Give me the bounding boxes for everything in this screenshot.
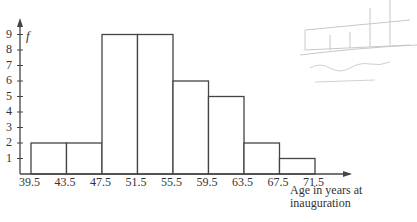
y-tick-label: 6 — [6, 73, 12, 88]
histogram-bar — [244, 143, 280, 174]
x-tick-label: 51.5 — [126, 175, 147, 190]
y-tick-label: 4 — [6, 104, 12, 119]
x-tick-label: 59.5 — [197, 175, 218, 190]
y-tick-label: 9 — [6, 27, 12, 42]
y-tick-label: 7 — [6, 58, 12, 73]
histogram-bar — [138, 35, 174, 175]
y-tick-label: 3 — [6, 120, 12, 135]
histogram-bar — [280, 159, 316, 175]
y-tick-label: 8 — [6, 42, 12, 57]
y-axis-label: f — [26, 28, 30, 44]
y-tick-label: 5 — [6, 89, 12, 104]
x-tick-label: 47.5 — [90, 175, 111, 190]
x-tick-label: 63.5 — [232, 175, 253, 190]
y-tick-label: 2 — [6, 135, 12, 150]
x-tick-label: 43.5 — [55, 175, 76, 190]
x-axis-label-line2: inauguration — [290, 197, 362, 210]
x-tick-label: 39.5 — [19, 175, 40, 190]
histogram-bar — [31, 143, 67, 174]
y-tick-label: 1 — [6, 151, 12, 166]
pencil-annotation — [300, 0, 417, 100]
histogram-bar — [173, 81, 209, 174]
histogram-bar — [67, 143, 103, 174]
x-axis-label: Age in years at inauguration — [290, 184, 362, 210]
histogram-bar — [102, 35, 138, 175]
x-tick-label: 67.5 — [268, 175, 289, 190]
x-tick-label: 55.5 — [161, 175, 182, 190]
histogram-bar — [209, 97, 245, 175]
